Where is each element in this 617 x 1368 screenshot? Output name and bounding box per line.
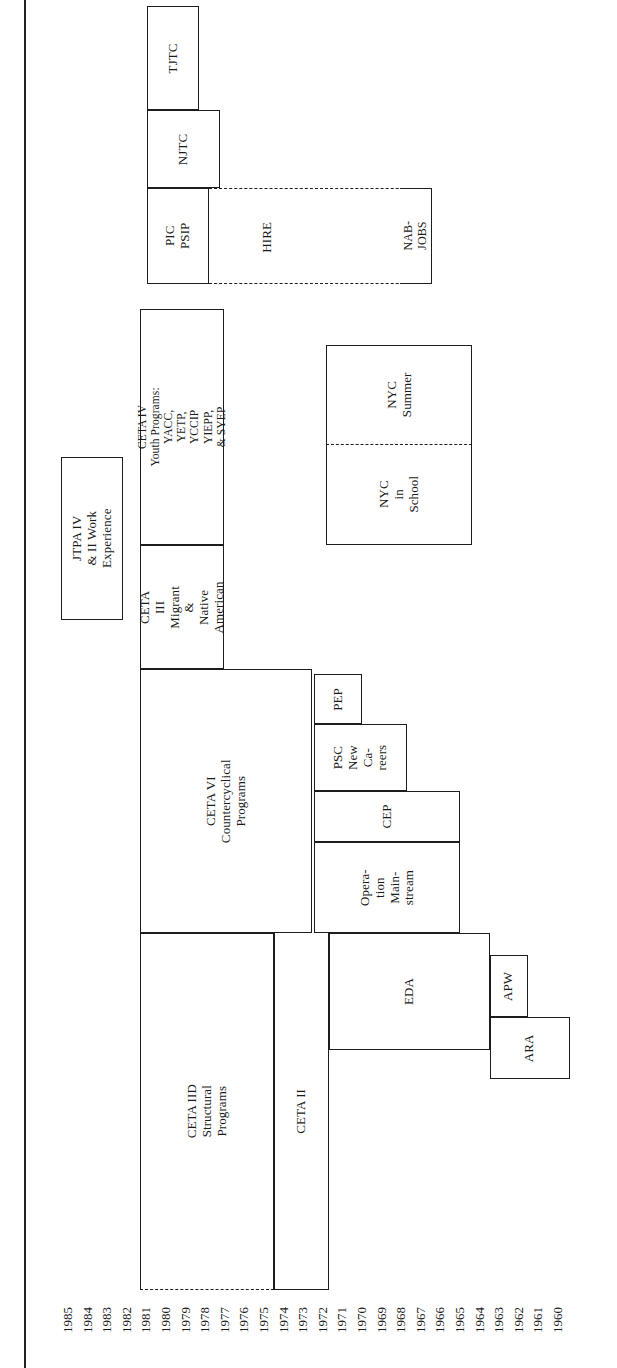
year-label-1981: 1981 — [139, 1292, 153, 1354]
block-hire: HIRE — [209, 188, 429, 284]
block-jtpa-iv-ii: JTPA IV & II Work Experience — [61, 457, 123, 620]
block-ceta-vi-label: CETA VI Countercyclical Programs — [204, 759, 248, 843]
block-psc-new-careers: PSC New Ca- reers — [314, 724, 407, 791]
year-label-text: 1975 — [256, 1307, 272, 1333]
year-label-text: 1970 — [354, 1307, 370, 1333]
block-eda: EDA — [329, 933, 490, 1050]
block-ceta-iii: CETA III Migrant & Native American — [140, 545, 224, 669]
year-label-1983: 1983 — [100, 1292, 114, 1354]
year-label-1976: 1976 — [237, 1292, 251, 1354]
block-ceta-vi: CETA VI Countercyclical Programs — [140, 669, 312, 933]
year-label-text: 1962 — [511, 1307, 527, 1333]
block-cep-label: CEP — [380, 804, 395, 828]
block-nyc-summer: NYC Summer — [326, 345, 472, 445]
year-label-1974: 1974 — [277, 1292, 291, 1354]
block-nab-jobs: NAB- JOBS — [400, 188, 432, 284]
year-label-1982: 1982 — [120, 1292, 134, 1354]
year-label-text: 1977 — [217, 1307, 233, 1333]
year-label-1967: 1967 — [414, 1292, 428, 1354]
year-label-text: 1979 — [178, 1307, 194, 1333]
block-pic-psip-label: PIC PSIP — [163, 223, 193, 249]
block-psc-new-careers-label: PSC New Ca- reers — [331, 745, 390, 771]
block-njtc: NJTC — [147, 110, 220, 188]
block-apw: APW — [490, 955, 528, 1017]
year-label-1964: 1964 — [473, 1292, 487, 1354]
year-label-text: 1984 — [80, 1307, 96, 1333]
block-nyc-in-school: NYC in School — [326, 445, 472, 545]
year-label-text: 1971 — [334, 1307, 350, 1333]
block-nyc-in-school-label: NYC in School — [377, 476, 421, 513]
block-tjtc-label: TJTC — [166, 43, 181, 73]
year-label-text: 1976 — [236, 1307, 252, 1333]
year-label-text: 1960 — [550, 1307, 566, 1333]
year-label-text: 1980 — [158, 1307, 174, 1333]
year-label-1979: 1979 — [179, 1292, 193, 1354]
block-ceta-iid-structural: CETA IID Structural Programs — [140, 933, 274, 1290]
block-ara: ARA — [490, 1017, 570, 1079]
year-label-text: 1978 — [197, 1307, 213, 1333]
block-pic-psip: PIC PSIP — [147, 188, 209, 284]
block-operation-mainstream-label: Opera- tion Main- stream — [357, 869, 416, 906]
block-cep: CEP — [314, 791, 460, 842]
year-label-text: 1961 — [530, 1307, 546, 1333]
block-operation-mainstream: Opera- tion Main- stream — [314, 842, 460, 933]
year-label-1965: 1965 — [453, 1292, 467, 1354]
year-label-text: 1966 — [432, 1307, 448, 1333]
year-label-text: 1981 — [138, 1307, 154, 1333]
year-label-1977: 1977 — [218, 1292, 232, 1354]
block-ceta-ii-label: CETA II — [294, 1089, 309, 1134]
year-axis: 1985198419831982198119801979197819771976… — [0, 1292, 617, 1368]
year-label-1962: 1962 — [512, 1292, 526, 1354]
timeline-chart: TJTC NJTC PIC PSIP HIRE NAB- JOBS JTPA I… — [0, 0, 617, 1368]
block-njtc-label: NJTC — [176, 133, 191, 164]
block-ceta-ii: CETA II — [274, 933, 329, 1290]
block-pep: PEP — [314, 674, 362, 724]
block-nyc-summer-label: NYC Summer — [384, 373, 414, 418]
year-label-text: 1964 — [472, 1307, 488, 1333]
block-pep-label: PEP — [331, 688, 346, 711]
year-label-1980: 1980 — [159, 1292, 173, 1354]
year-label-1960: 1960 — [551, 1292, 565, 1354]
block-ceta-iid-structural-label: CETA IID Structural Programs — [185, 1084, 229, 1138]
year-label-1978: 1978 — [198, 1292, 212, 1354]
year-label-1973: 1973 — [296, 1292, 310, 1354]
year-label-text: 1973 — [295, 1307, 311, 1333]
year-label-text: 1972 — [315, 1307, 331, 1333]
year-label-1970: 1970 — [355, 1292, 369, 1354]
year-label-text: 1974 — [276, 1307, 292, 1333]
year-label-text: 1982 — [119, 1307, 135, 1333]
block-eda-label: EDA — [402, 978, 417, 1005]
year-label-text: 1968 — [393, 1307, 409, 1333]
year-label-text: 1965 — [452, 1307, 468, 1333]
year-label-1968: 1968 — [394, 1292, 408, 1354]
block-apw-label: APW — [502, 971, 517, 1000]
block-nab-jobs-label: NAB- JOBS — [402, 221, 429, 251]
block-hire-label: HIRE — [260, 222, 275, 253]
year-label-text: 1985 — [60, 1307, 76, 1333]
block-jtpa-iv-ii-label: JTPA IV & II Work Experience — [70, 509, 114, 568]
block-ara-label: ARA — [523, 1034, 538, 1062]
block-tjtc: TJTC — [147, 6, 199, 110]
year-label-text: 1967 — [413, 1307, 429, 1333]
year-label-1985: 1985 — [61, 1292, 75, 1354]
year-label-text: 1983 — [99, 1307, 115, 1333]
year-label-text: 1969 — [374, 1307, 390, 1333]
year-label-1971: 1971 — [335, 1292, 349, 1354]
year-label-1963: 1963 — [492, 1292, 506, 1354]
block-ceta-iii-label: CETA III Migrant & Native American — [138, 581, 227, 633]
year-label-1975: 1975 — [257, 1292, 271, 1354]
block-ceta-iv-youth-label: CETA IV Youth Programs: YACC, YETP, YCCI… — [136, 387, 228, 466]
year-label-1969: 1969 — [375, 1292, 389, 1354]
year-label-1984: 1984 — [81, 1292, 95, 1354]
year-label-1961: 1961 — [531, 1292, 545, 1354]
year-label-1966: 1966 — [433, 1292, 447, 1354]
block-ceta-iv-youth: CETA IV Youth Programs: YACC, YETP, YCCI… — [140, 309, 224, 545]
year-label-1972: 1972 — [316, 1292, 330, 1354]
year-label-text: 1963 — [491, 1307, 507, 1333]
